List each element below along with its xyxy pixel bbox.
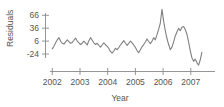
x-tick-label-2006: 2006 — [154, 77, 173, 87]
x-tick-label-2004: 2004 — [98, 77, 117, 87]
residuals-series-line — [52, 9, 202, 65]
x-axis-title: Year — [111, 93, 128, 103]
y-tick-label-neg24: -24 — [27, 49, 40, 59]
chart-canvas: 66 36 6 -24 Residuals 2002 2003 2004 200… — [0, 0, 224, 107]
x-tick-label-2002: 2002 — [43, 77, 62, 87]
x-tick-label-2003: 2003 — [71, 77, 90, 87]
y-axis-title: Residuals — [5, 10, 15, 47]
y-tick-label-36: 36 — [30, 23, 40, 33]
x-tick-label-2007: 2007 — [181, 77, 200, 87]
y-tick-label-6: 6 — [34, 36, 39, 46]
residuals-time-series-chart: 66 36 6 -24 Residuals 2002 2003 2004 200… — [0, 0, 224, 107]
y-tick-label-66: 66 — [30, 10, 40, 20]
x-tick-label-2005: 2005 — [126, 77, 145, 87]
